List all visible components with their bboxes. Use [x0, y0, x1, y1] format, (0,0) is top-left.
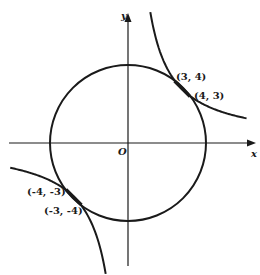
point-label-neg3-neg4: (-3, -4) [44, 205, 83, 217]
diagram-figure: y x O (3, 4) (4, 3) (-4, -3) (-3, -4) [0, 0, 260, 275]
origin-label: O [118, 146, 127, 157]
hyperbola-lower-branch [10, 168, 105, 274]
point-label-3-4: (3, 4) [176, 71, 206, 83]
point-label-neg4-neg3: (-4, -3) [27, 186, 66, 198]
y-axis-label: y [120, 10, 128, 21]
hyperbola-upper-branch [150, 12, 246, 118]
overlap-segment-upper [175, 81, 191, 97]
point-label-4-3: (4, 3) [194, 90, 224, 102]
x-axis-arrow-icon [247, 140, 256, 147]
diagram-canvas: y x O (3, 4) (4, 3) (-4, -3) (-3, -4) [0, 0, 260, 275]
x-axis-label: x [250, 148, 258, 159]
overlap-segment-lower [66, 190, 82, 206]
